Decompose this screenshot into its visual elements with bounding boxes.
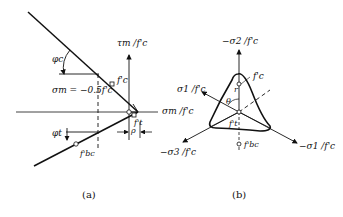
- fc-label-b: f'c: [252, 71, 264, 81]
- phi-t-label: φt: [52, 128, 62, 138]
- ft-square-point: [132, 113, 136, 117]
- neg-sigma2-label: −σ2 /f'c: [222, 36, 258, 46]
- neg-sigma1-label: −σ1 /f'c: [299, 141, 335, 151]
- figure-canvas: τm /f'c σm /f'c φc φt σm = −0.5f'c f'c f…: [0, 0, 343, 217]
- fbc-label: f'bc: [79, 149, 95, 158]
- ft-point-b: [237, 110, 241, 114]
- tau-axis-label: τm /f'c: [117, 38, 147, 48]
- fbc-point: [74, 142, 78, 146]
- sigma-axis-label: σm /f'c: [162, 106, 193, 116]
- phi-c-arc-icon: [63, 50, 70, 74]
- theta-label: θ: [226, 97, 231, 106]
- fbc-point-b: [237, 142, 241, 146]
- neg-sigma3-label: −σ3 /f'c: [160, 147, 196, 157]
- dashed-ray: [239, 90, 270, 112]
- r-label: r: [234, 85, 239, 94]
- sigma1-axis: [202, 92, 239, 112]
- rho-label: ρ: [130, 126, 136, 135]
- caption-a: (a): [82, 189, 96, 200]
- figure-a: τm /f'c σm /f'c φc φt σm = −0.5f'c f'c f…: [16, 12, 193, 200]
- figure-b: −σ2 /f'c σ1 /f'c −σ3 /f'c −σ1 /f'c f'c f…: [160, 36, 335, 200]
- ft-point: [127, 110, 131, 114]
- phi-c-label: φc: [52, 54, 63, 64]
- ft-label-b: f't: [228, 119, 238, 128]
- sigma-m-equation: σm = −0.5f'c: [52, 85, 113, 95]
- fbc-label-b: f'bc: [243, 140, 259, 149]
- sigma1-label: σ1 /f'c: [177, 84, 206, 94]
- fc-label: f'c: [116, 75, 128, 85]
- compressive-meridian: [28, 12, 138, 112]
- caption-b: (b): [232, 189, 246, 200]
